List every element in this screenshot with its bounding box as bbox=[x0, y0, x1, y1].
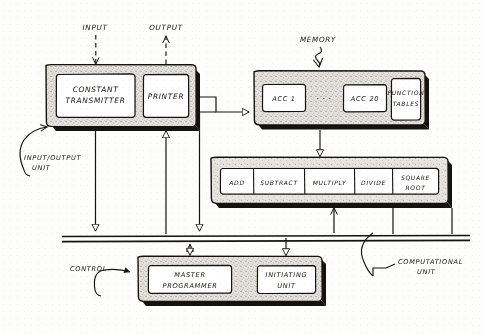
memory-label: MEMORY bbox=[300, 35, 336, 44]
io-unit-callout-label-line2: UNIT bbox=[32, 164, 51, 172]
acc-ellipsis: · · · bbox=[316, 94, 331, 103]
box-printer[interactable]: PRINTER bbox=[143, 74, 188, 117]
function-tables-label-line2: TABLES bbox=[393, 100, 419, 107]
acc1-label: ACC 1 bbox=[271, 95, 296, 103]
master-programmer-label-line2: PROGRAMMER bbox=[162, 282, 217, 290]
box-multiply[interactable]: MULTIPLY bbox=[313, 179, 347, 186]
box-master-programmer[interactable]: MASTER PROGRAMMER bbox=[148, 265, 231, 293]
diagram-canvas: CONSTANT TRANSMITTER PRINTER INPUT OUTPU… bbox=[0, 0, 485, 334]
computational-unit-label-line1: COMPUTATIONAL bbox=[398, 258, 463, 266]
box-initiating-unit[interactable]: INITIATING UNIT bbox=[257, 266, 315, 294]
computational-unit-callout: COMPUTATIONAL UNIT bbox=[361, 233, 463, 276]
box-add[interactable]: ADD bbox=[228, 179, 244, 186]
acc20-label: ACC 20 bbox=[350, 95, 379, 103]
io-unit-callout: INPUT/OUTPUT UNIT bbox=[20, 127, 81, 176]
output-label: OUTPUT bbox=[149, 23, 183, 32]
initiating-unit-label-line2: UNIT bbox=[277, 282, 296, 290]
square-root-label-line2: ROOT bbox=[405, 184, 426, 191]
function-tables-label-line1: FUNCTION bbox=[388, 89, 425, 96]
arithmetic-operation-boxes: ADD SUBTRACT MULTIPLY DIVIDE SQUARE ROOT bbox=[220, 168, 438, 194]
input-flow: INPUT bbox=[83, 23, 108, 64]
memory-callout: MEMORY bbox=[300, 35, 336, 67]
box-acc1[interactable]: ACC 1 bbox=[262, 84, 305, 111]
add-label: ADD bbox=[228, 179, 244, 186]
output-flow: OUTPUT bbox=[149, 23, 183, 64]
box-acc20[interactable]: ACC 20 bbox=[343, 85, 386, 112]
control-callout-label: CONTROL bbox=[70, 265, 107, 273]
printer-label: PRINTER bbox=[148, 92, 185, 101]
divide-label: DIVIDE bbox=[361, 179, 386, 186]
computational-unit-label-line2: UNIT bbox=[417, 268, 436, 276]
subtract-label: SUBTRACT bbox=[260, 179, 298, 186]
main-bus bbox=[62, 235, 470, 241]
master-programmer-label-line1: MASTER bbox=[174, 271, 205, 279]
input-label: INPUT bbox=[83, 23, 108, 32]
box-constant-transmitter[interactable]: CONSTANT TRANSMITTER bbox=[56, 74, 135, 117]
eniac-block-diagram: CONSTANT TRANSMITTER PRINTER INPUT OUTPU… bbox=[0, 0, 485, 334]
square-root-label-line1: SQUARE bbox=[401, 174, 430, 181]
box-divide[interactable]: DIVIDE bbox=[361, 179, 386, 186]
box-function-tables[interactable]: FUNCTION TABLES bbox=[388, 78, 425, 120]
initiating-unit-label-line1: INITIATING bbox=[266, 271, 308, 279]
constant-transmitter-label-line2: TRANSMITTER bbox=[65, 96, 125, 105]
io-unit-callout-label-line1: INPUT/OUTPUT bbox=[24, 154, 81, 162]
control-callout: CONTROL bbox=[70, 265, 130, 296]
constant-transmitter-label-line1: CONSTANT bbox=[73, 85, 119, 94]
box-subtract[interactable]: SUBTRACT bbox=[260, 179, 298, 186]
multiply-label: MULTIPLY bbox=[313, 179, 347, 186]
